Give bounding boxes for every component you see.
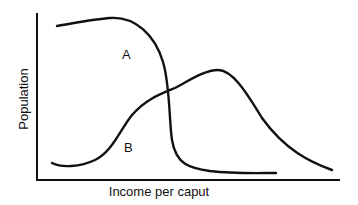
curve-a-label: A (122, 47, 131, 62)
curve-a (57, 18, 276, 173)
y-axis-label: Population (16, 68, 31, 129)
x-axis-label: Income per caput (109, 184, 210, 199)
curve-b-label: B (124, 140, 133, 155)
curve-b (52, 70, 332, 170)
chart: A B Population Income per caput (0, 0, 358, 205)
